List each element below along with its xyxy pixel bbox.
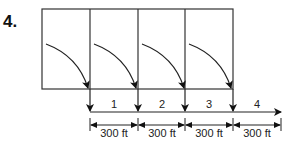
segment-label-4: 4 — [254, 98, 260, 110]
problem-number: 4. — [3, 12, 17, 31]
curve-arrow-icon — [189, 44, 231, 88]
curve-arrow-icon — [46, 44, 88, 88]
dimension-label-1: 300 ft — [100, 127, 128, 139]
curve-arrow-icon — [94, 44, 136, 88]
segment-label-3: 3 — [206, 98, 212, 110]
segment-label-2: 2 — [159, 98, 165, 110]
segment-label-1: 1 — [111, 98, 117, 110]
box-row — [42, 9, 233, 89]
curve-arrow-icon — [142, 44, 184, 88]
dimension-label-4: 300 ft — [243, 127, 271, 139]
diagram: 4. 1 2 3 4 300 ft 300 — [0, 0, 295, 146]
dimension-label-2: 300 ft — [148, 127, 176, 139]
dimension-label-3: 300 ft — [195, 127, 223, 139]
